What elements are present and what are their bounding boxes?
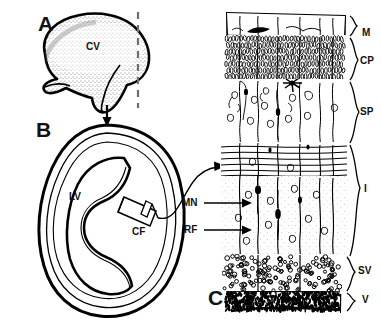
- brace-cp: [350, 38, 358, 80]
- brace-sp: [350, 82, 359, 143]
- subplate-content: [222, 78, 348, 146]
- panel-c-letter: C: [208, 286, 223, 310]
- subventricular-zone-content: [222, 254, 342, 294]
- zone-label-v: V: [362, 294, 369, 305]
- zone-label-i: I: [364, 183, 367, 194]
- panel-c-group: [204, 13, 360, 313]
- marginal-zone-content: [227, 13, 345, 37]
- panel-a-group: [44, 12, 150, 127]
- intermediate-fiber-band: [220, 142, 348, 179]
- zone-label-sp: SP: [360, 106, 373, 117]
- brace-sv: [347, 257, 355, 291]
- cortical-plate-content: [224, 35, 346, 82]
- cortical-field-label: CF: [132, 226, 145, 237]
- migrating-neuron-label: MN: [182, 197, 198, 208]
- panel-a-letter: A: [38, 12, 53, 36]
- panel-b-group: [39, 125, 226, 317]
- figure-canvas: [0, 0, 381, 330]
- ventricular-zone-content: [224, 289, 344, 313]
- zone-label-sv: SV: [358, 265, 371, 276]
- zone-label-cp: CP: [360, 55, 374, 66]
- radial-fiber-label: RF: [184, 224, 197, 235]
- brace-v: [347, 293, 355, 311]
- brace-i: [350, 145, 360, 256]
- zone-label-m: M: [362, 27, 370, 38]
- brace-m: [350, 16, 357, 36]
- panel-b-letter: B: [36, 118, 51, 142]
- cerebral-vesicle-label: CV: [86, 41, 100, 52]
- intermediate-zone-content: [220, 176, 348, 258]
- figure-root: A CV B LV CF C M CP SP I SV V MN RF: [0, 0, 381, 330]
- lateral-ventricle-label: LV: [69, 191, 81, 202]
